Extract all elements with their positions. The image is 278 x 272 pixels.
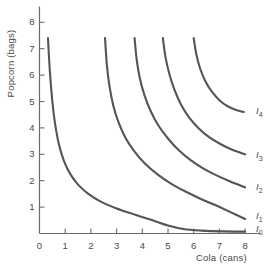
curve-I2 [135,38,246,187]
x-axis-title: Cola (cans) [196,252,247,263]
x-tick-label: 5 [161,240,175,251]
curve-label-I4: I4 [256,105,263,118]
axes [40,6,261,233]
curve-series [48,38,245,232]
y-tick-label: 3 [23,148,35,159]
curve-label-I3: I3 [256,149,263,162]
x-tick-label: 0 [33,240,47,251]
x-tick-label: 4 [135,240,149,251]
plot-area [0,0,278,272]
curve-label-I1: I1 [256,210,263,223]
y-axis-title: Popcorn (bags) [5,17,16,111]
y-tick-label: 1 [23,201,35,212]
y-tick-label: 6 [23,69,35,80]
x-tick-label: 2 [84,240,98,251]
curve-I0 [48,38,245,232]
curve-I3 [163,38,245,154]
x-tick-label: 1 [58,240,72,251]
x-tick-label: 7 [212,240,226,251]
y-tick-label: 2 [23,175,35,186]
curve-label-I2: I2 [256,181,263,194]
curve-I4 [194,38,244,112]
y-tick-label: 5 [23,96,35,107]
curve-I1 [105,38,245,219]
x-tick-label: 8 [238,240,252,251]
curve-label-I0: I0 [256,223,263,236]
y-tick-label: 8 [23,16,35,27]
x-tick-label: 3 [110,240,124,251]
x-tick-label: 6 [187,240,201,251]
y-tick-label: 4 [23,122,35,133]
axis-ticks [40,22,246,233]
y-tick-label: 7 [23,43,35,54]
indifference-curve-chart: Popcorn (bags) Cola (cans) 012345678 123… [0,0,278,272]
